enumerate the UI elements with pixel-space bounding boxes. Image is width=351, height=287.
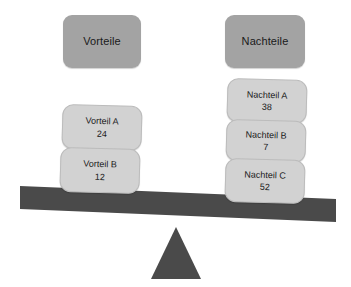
- item-box-nachteil-a[interactable]: Nachteil A 38: [226, 78, 307, 124]
- item-label: Vorteil B: [83, 158, 117, 171]
- seesaw-diagram: Vorteile Nachteile Vorteil A 24 Vorteil …: [0, 0, 351, 287]
- item-value: 12: [95, 170, 105, 182]
- category-header-right[interactable]: Nachteile: [225, 15, 305, 68]
- item-label: Nachteil B: [245, 128, 286, 141]
- item-box-nachteil-b[interactable]: Nachteil B 7: [225, 119, 306, 163]
- item-box-vorteil-a[interactable]: Vorteil A 24: [61, 104, 142, 151]
- item-label: Nachteil C: [244, 168, 286, 181]
- item-value: 24: [97, 127, 107, 139]
- item-value: 52: [260, 181, 270, 193]
- item-box-nachteil-c[interactable]: Nachteil C 52: [224, 158, 305, 204]
- category-header-left-label: Vorteile: [83, 35, 121, 47]
- item-value: 7: [263, 141, 268, 153]
- category-header-right-label: Nachteile: [242, 35, 289, 47]
- item-label: Vorteil A: [85, 115, 118, 128]
- category-header-left[interactable]: Vorteile: [63, 15, 141, 68]
- item-box-vorteil-b[interactable]: Vorteil B 12: [59, 147, 140, 194]
- item-label: Nachteil A: [247, 88, 288, 101]
- item-value: 38: [262, 101, 272, 113]
